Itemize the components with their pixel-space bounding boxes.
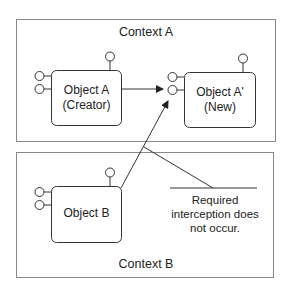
context-b-label: Context B bbox=[96, 257, 196, 272]
object-a-new-name: Object A' bbox=[184, 85, 256, 100]
interface-left-icon bbox=[35, 201, 44, 210]
interface-left-icon bbox=[168, 86, 177, 95]
object-a-new-role: (New) bbox=[184, 100, 256, 115]
object-a-label: Object A (Creator) bbox=[51, 83, 122, 113]
interface-left-icon bbox=[35, 72, 44, 81]
interface-top-icon bbox=[106, 168, 115, 177]
annotation-line-3: not occur. bbox=[160, 221, 270, 235]
context-a-label: Context A bbox=[96, 25, 196, 40]
interface-left-icon bbox=[168, 73, 177, 82]
diagram-canvas bbox=[0, 0, 288, 290]
annotation-line-2: interception does bbox=[160, 207, 270, 221]
annotation-leader-line bbox=[144, 147, 213, 188]
object-a-name: Object A bbox=[51, 83, 122, 98]
interface-left-icon bbox=[35, 188, 44, 197]
interface-left-icon bbox=[35, 85, 44, 94]
annotation-line-1: Required bbox=[160, 193, 270, 207]
interface-top-icon bbox=[106, 52, 115, 61]
call-arrow bbox=[121, 101, 168, 188]
interface-top-icon bbox=[239, 54, 248, 63]
object-a-role: (Creator) bbox=[51, 98, 122, 113]
annotation-text: Required interception does not occur. bbox=[160, 193, 270, 235]
object-a-new-label: Object A' (New) bbox=[184, 85, 256, 115]
object-b-label: Object B bbox=[51, 206, 122, 221]
